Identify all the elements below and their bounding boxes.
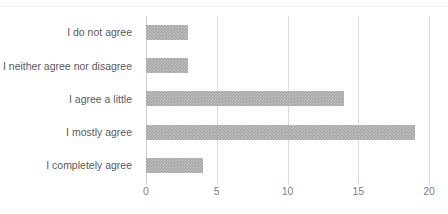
bar: [146, 91, 344, 106]
bar-row: [146, 116, 429, 149]
bar-row: [146, 149, 429, 182]
bar-row: [146, 49, 429, 82]
value-axis-label: 5: [214, 186, 220, 197]
bar-row: [146, 82, 429, 115]
value-axis-label: 20: [423, 186, 435, 197]
bar: [146, 158, 203, 173]
plot-area: [146, 16, 429, 182]
bar-chart: I do not agreeI neither agree nor disagr…: [0, 0, 448, 214]
category-axis-label: I completely agree: [0, 149, 139, 182]
bar: [146, 25, 188, 40]
category-axis-label: I mostly agree: [0, 116, 139, 149]
category-axis-label: I neither agree nor disagree: [0, 49, 139, 82]
value-axis-label: 0: [143, 186, 149, 197]
value-axis-labels: 05101520: [0, 186, 448, 206]
gridline: [429, 16, 430, 182]
value-axis-label: 10: [282, 186, 294, 197]
category-axis-labels: I do not agreeI neither agree nor disagr…: [0, 16, 139, 182]
bar-row: [146, 16, 429, 49]
category-axis-label: I agree a little: [0, 82, 139, 115]
value-axis-label: 15: [352, 186, 364, 197]
bar: [146, 58, 188, 73]
category-axis-label: I do not agree: [0, 16, 139, 49]
top-divider: [0, 6, 448, 7]
bar-series: [146, 16, 429, 182]
bar: [146, 125, 415, 140]
